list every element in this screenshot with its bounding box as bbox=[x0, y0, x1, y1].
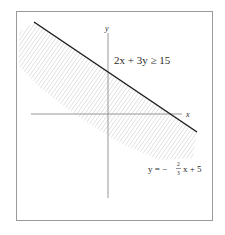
graph-figure: x y 2x + 3y ≥ 15 y = − 2 3 x + 5 bbox=[0, 0, 225, 235]
x-axis-label: x bbox=[185, 110, 190, 119]
y-axis-label: y bbox=[104, 24, 109, 33]
equation-rhs: x + 5 bbox=[183, 164, 202, 174]
equation-fraction-denominator: 3 bbox=[177, 170, 180, 176]
equation-lhs: y = − bbox=[148, 164, 167, 174]
inequality-graph: x y 2x + 3y ≥ 15 y = − 2 3 x + 5 bbox=[0, 0, 225, 235]
equation-label: y = − 2 3 x + 5 bbox=[148, 161, 202, 176]
equation-fraction-numerator: 2 bbox=[177, 161, 180, 167]
inequality-label: 2x + 3y ≥ 15 bbox=[114, 54, 171, 66]
